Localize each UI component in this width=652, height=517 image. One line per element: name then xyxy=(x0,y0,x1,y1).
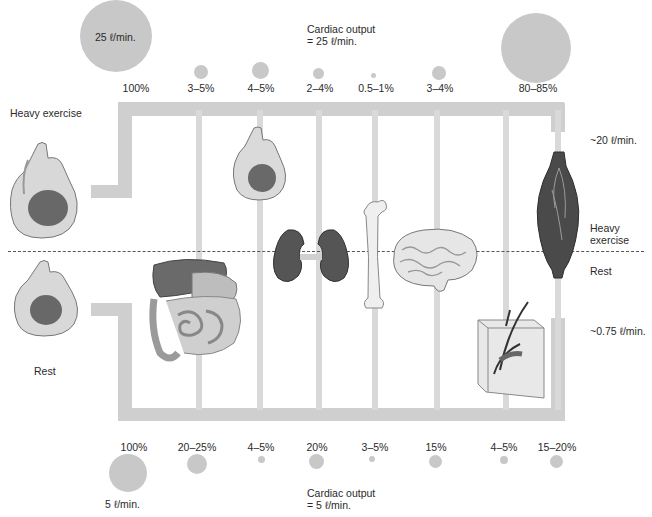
exercise-muscle-circle xyxy=(501,13,571,83)
rest-percent-digestive: 20–25% xyxy=(167,441,227,453)
rest-cardiac-output-title: Cardiac output xyxy=(307,487,375,499)
exercise-manifold-drop xyxy=(118,102,132,198)
heart-icon-rest xyxy=(8,258,86,338)
rest-percent-muscle: 15–20% xyxy=(527,441,587,453)
exercise-digestive-circle xyxy=(194,65,208,79)
rest-heart-circle xyxy=(258,456,265,463)
rest-bone-circle xyxy=(369,456,375,462)
exercise-percent-digestive: 3–5% xyxy=(171,82,231,94)
exercise-total-circle-label: 25 ℓ/min. xyxy=(95,31,136,43)
divider-label-exercise: exercise xyxy=(590,234,629,246)
rest-manifold-rise xyxy=(118,303,132,421)
skin-icon xyxy=(470,300,554,404)
exercise-percent-brain: 3–4% xyxy=(410,82,470,94)
exercise-cardiac-output-title: Cardiac output xyxy=(307,23,375,35)
rest-cardiac-output-value: = 5 ℓ/min. xyxy=(307,499,351,511)
exercise-percent-bone: 0.5–1% xyxy=(346,82,406,94)
rest-muscle-flow: ~0.75 ℓ/min. xyxy=(590,325,646,337)
rest-brain-circle xyxy=(429,455,442,468)
rest-muscle-circle xyxy=(550,455,563,468)
kidneys-icon xyxy=(274,228,360,286)
exercise-percent-muscle: 80–85% xyxy=(508,82,568,94)
skeletal-muscle-icon xyxy=(534,150,584,280)
rest-manifold-bottom xyxy=(118,408,565,421)
rest-percent-heart: 4–5% xyxy=(231,441,291,453)
rest-kidney-circle xyxy=(309,454,324,469)
exercise-kidney-circle xyxy=(313,68,324,79)
exercise-brain-circle xyxy=(432,66,446,80)
divider-label-rest: Rest xyxy=(590,265,612,277)
exercise-percent-heart: 4–5% xyxy=(231,82,291,94)
rest-percent-brain: 15% xyxy=(406,441,466,453)
exercise-cardiac-output-value: = 25 ℓ/min. xyxy=(307,35,357,47)
exercise-bone-circle xyxy=(371,73,376,78)
exercise-aorta-stub xyxy=(91,185,132,198)
rest-percent-skin: 4–5% xyxy=(474,441,534,453)
cardiac-muscle-icon xyxy=(232,126,292,202)
rest-percent-kidneys: 20% xyxy=(287,441,347,453)
heavy-exercise-label: Heavy exercise xyxy=(10,107,82,119)
exercise-muscle-flow: ~20 ℓ/min. xyxy=(590,134,637,146)
rest-percent-total: 100% xyxy=(104,441,164,453)
divider-label-heavy: Heavy xyxy=(590,222,620,234)
rest-digestive-circle xyxy=(187,454,207,474)
rest-percent-bone: 3–5% xyxy=(345,441,405,453)
heart-icon-exercise xyxy=(8,140,86,240)
exercise-manifold-top xyxy=(118,102,565,116)
rest-skin-circle xyxy=(500,456,508,464)
digestive-tract-icon xyxy=(148,255,248,367)
bone-icon xyxy=(360,198,388,310)
brain-icon xyxy=(388,226,480,296)
exercise-percent-kidneys: 2–4% xyxy=(290,82,350,94)
rest-total-circle-label: 5 ℓ/min. xyxy=(105,498,140,510)
exercise-heart-circle xyxy=(252,62,269,79)
rest-heart-label: Rest xyxy=(34,365,56,377)
exercise-percent-total: 100% xyxy=(106,82,166,94)
rest-total-circle xyxy=(109,454,147,492)
